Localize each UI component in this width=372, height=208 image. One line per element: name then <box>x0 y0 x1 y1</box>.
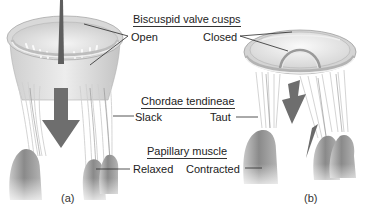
papillary-muscle-header: Papillary muscle <box>147 145 227 159</box>
closed-label: Closed <box>203 31 237 43</box>
taut-label: Taut <box>210 111 231 123</box>
valve-diagram: Biscuspid valve cusps Open Closed Chorda… <box>0 0 372 208</box>
relaxed-label: Relaxed <box>133 163 173 175</box>
contracted-label: Contracted <box>186 163 240 175</box>
panel-a-caption: (a) <box>61 192 74 204</box>
chordae-tendineae-header: Chordae tendineae <box>141 95 235 109</box>
open-label: Open <box>131 31 158 43</box>
panel-b-caption: (b) <box>304 192 317 204</box>
slack-label: Slack <box>135 111 162 123</box>
valve-cusps-header: Biscuspid valve cusps <box>133 13 241 27</box>
